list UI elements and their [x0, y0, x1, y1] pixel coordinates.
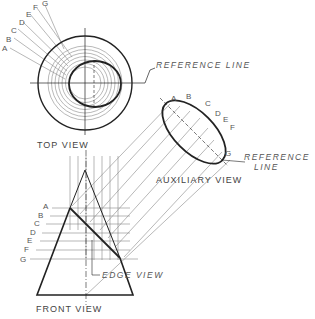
front-view-label: FRONT VIEW: [36, 304, 102, 314]
aux-label-d: D: [215, 109, 221, 118]
front-label-c: C: [34, 219, 40, 228]
aux-label-a: A: [171, 94, 176, 103]
reference-line-top-label: REFERENCE LINE: [156, 60, 251, 70]
top-label-g: G: [42, 0, 48, 8]
front-label-f: F: [24, 245, 29, 254]
top-view-label: TOP VIEW: [37, 140, 89, 150]
front-label-e: E: [27, 236, 32, 245]
reference-line-aux-label-2: LINE: [254, 162, 279, 172]
aux-label-f: F: [230, 123, 235, 132]
top-label-c: C: [11, 26, 17, 35]
aux-label-c: C: [205, 99, 211, 108]
reference-line-aux-label-1: REFERENCE: [244, 152, 310, 162]
top-label-e: E: [26, 10, 31, 19]
top-view-section-curve: [69, 61, 121, 107]
auxiliary-view: [152, 90, 245, 175]
top-label-a: A: [2, 44, 7, 53]
top-label-f: F: [33, 3, 38, 12]
front-label-a: A: [43, 202, 48, 211]
top-label-b: B: [6, 35, 11, 44]
aux-label-g: G: [225, 149, 231, 158]
auxiliary-view-label: AUXILIARY VIEW: [156, 175, 242, 185]
front-label-g: G: [20, 255, 26, 264]
top-label-d: D: [19, 18, 25, 27]
projection-arrows: [30, 104, 230, 295]
front-view: [37, 150, 133, 305]
edge-view-label: EDGE VIEW: [102, 270, 164, 280]
aux-label-e: E: [223, 115, 228, 124]
aux-label-b: B: [186, 92, 191, 101]
